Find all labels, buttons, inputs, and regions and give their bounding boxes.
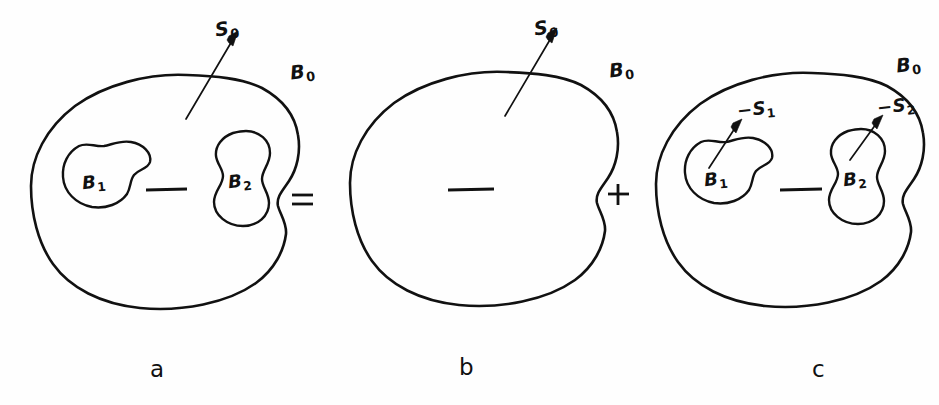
- figure-canvas: S0 B0 B1 B2 S0 B0 B0 −S1 −S2 B1 B2 a b c: [0, 0, 939, 405]
- panel-b-center-dash: [448, 189, 494, 190]
- panel-a-outer-boundary: [31, 75, 299, 309]
- panel-c-caption: c: [812, 358, 825, 381]
- panel-a-inner-body-1-label: B1: [81, 172, 106, 192]
- panel-a-inner-body-2-label: B2: [227, 171, 252, 191]
- panel-b-caption: b: [459, 356, 474, 379]
- panel-a-outer-body-label: B0: [289, 61, 315, 83]
- panel-c-s1-leader: [709, 128, 735, 168]
- panel-a-caption: a: [150, 358, 165, 381]
- panel-c-center-dash: [780, 189, 822, 190]
- panel-a-s0-leader: [186, 41, 232, 119]
- panel-a-group: [31, 31, 299, 309]
- panel-a-inner-body-1-boundary: [63, 142, 150, 208]
- panel-c-inner-body-1-label: B1: [703, 169, 728, 189]
- panel-c-inner-surface-2-label: −S2: [876, 95, 915, 117]
- panel-b-group: [350, 28, 618, 306]
- equals-sign-group: [292, 195, 313, 204]
- panel-b-s0-leader: [505, 38, 551, 116]
- panel-c-inner-body-2-label: B2: [842, 169, 867, 189]
- panel-b-outer-body-label: B0: [608, 59, 634, 81]
- plus-sign-group: [608, 184, 629, 205]
- panel-b-outer-surface-label: S0: [533, 16, 559, 38]
- panel-c-outer-body-label: B0: [895, 54, 921, 76]
- panel-a-outer-surface-label: S0: [214, 17, 240, 39]
- panel-c-inner-body-1-boundary: [685, 138, 772, 204]
- panel-c-inner-surface-1-label: −S1: [736, 98, 775, 120]
- diagram-vector-layer: [0, 0, 939, 405]
- panel-a-center-dash: [146, 189, 187, 190]
